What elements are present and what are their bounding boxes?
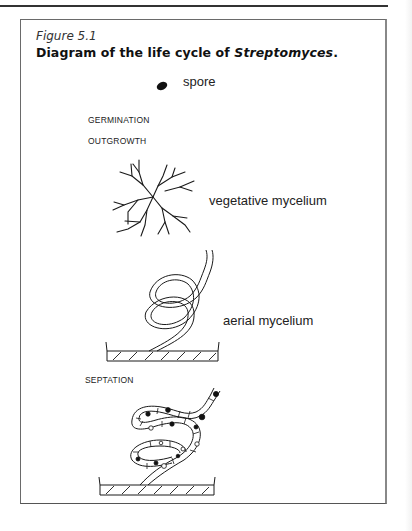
- spore-icon: [155, 80, 168, 92]
- life-cycle-illustration: [0, 0, 412, 531]
- septa-lines-icon: [133, 398, 214, 469]
- aerial-mycelium-icon: [106, 250, 219, 361]
- vegetative-mycelium-icon: [113, 160, 194, 236]
